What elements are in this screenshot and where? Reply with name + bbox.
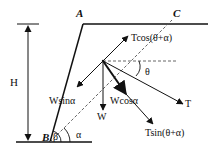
point-a-label: A — [75, 7, 83, 19]
force-diagram: A C B H β α θ Tcos(θ+α) Wsinα Wcosα W T … — [0, 0, 218, 150]
theta-label: θ — [145, 66, 150, 77]
wsin-force-arrow — [77, 61, 103, 87]
t-label: T — [185, 98, 191, 109]
tsin-label: Tsin(θ+α) — [145, 127, 184, 139]
theta-angle-arc — [136, 61, 140, 76]
point-b-label: B — [41, 131, 49, 143]
beta-label: β — [53, 131, 58, 142]
tcos-label: Tcos(θ+α) — [131, 32, 172, 44]
wsin-label: Wsinα — [49, 95, 76, 106]
height-label: H — [10, 76, 18, 88]
wcos-label: Wcosα — [110, 95, 139, 106]
point-c-label: C — [173, 7, 181, 19]
slope-line — [50, 24, 83, 142]
alpha-label: α — [76, 129, 82, 140]
wcos-force-arrow — [103, 61, 126, 94]
tcos-force-arrow — [103, 36, 128, 61]
height-arrow-down-icon — [25, 134, 32, 141]
w-label: W — [97, 111, 107, 122]
force-origin-point — [102, 60, 104, 62]
alpha-angle-arc — [64, 128, 70, 142]
height-arrow-up-icon — [25, 25, 32, 32]
